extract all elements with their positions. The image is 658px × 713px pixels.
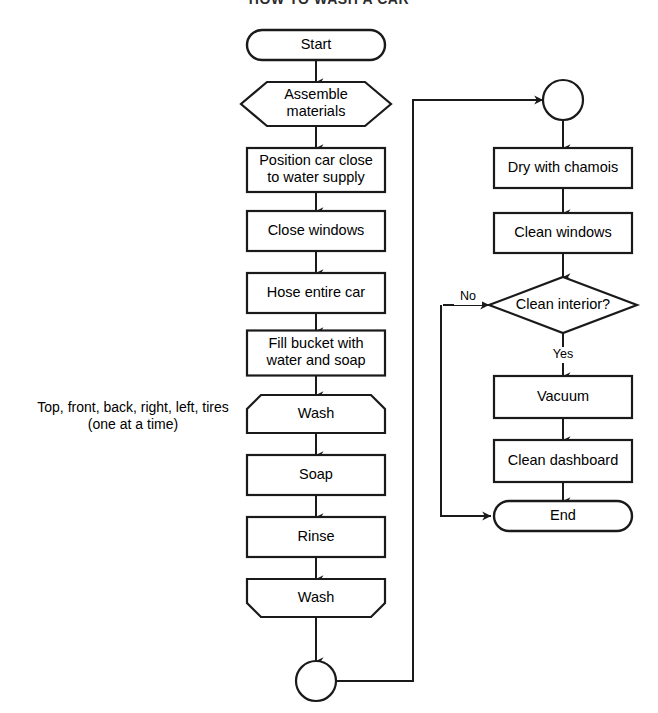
edge-e-cleanint-end: No [441,289,491,516]
node-soap[interactable]: Soap [247,455,385,495]
cleanint-label: Clean interior? [516,296,610,312]
node-cleandash[interactable]: Clean dashboard [494,440,632,482]
no-branch-path [441,305,491,516]
node-cleanwin[interactable]: Clean windows [494,213,632,253]
node-wash2[interactable]: Wash [247,579,385,617]
node-rinse[interactable]: Rinse [247,517,385,557]
node-cleanint[interactable]: Clean interior? [489,277,637,333]
rinse-label: Rinse [297,528,334,544]
node-wash1[interactable]: Wash [247,395,385,433]
node-vacuum[interactable]: Vacuum [494,376,632,418]
node-hose[interactable]: Hose entire car [247,273,385,313]
cleandash-label: Clean dashboard [508,452,618,468]
drychamois-label: Dry with chamois [508,159,618,175]
annotation-line-1: Top, front, back, right, left, tires [37,399,228,415]
connA-shape[interactable] [296,661,336,701]
flowchart-svg: HOW TO WASH A CAR YesNo StartAssemblemat… [0,0,658,713]
edge-e-cleanint-vacuum: Yes [549,333,577,376]
fillbucket-label: Fill bucket with [268,335,363,351]
assemble-label: materials [287,103,346,119]
diagram-title: HOW TO WASH A CAR [249,0,410,7]
connB-shape[interactable] [543,80,583,120]
node-assemble[interactable]: Assemblematerials [241,82,391,126]
node-layer: StartAssemblematerialsPosition car close… [241,30,637,701]
soap-label: Soap [299,466,333,482]
wash2-label: Wash [298,589,335,605]
node-fillbucket[interactable]: Fill bucket withwater and soap [247,331,385,376]
closewin-label: Close windows [268,222,365,238]
hose-label: Hose entire car [267,284,365,300]
position-label: Position car close [259,152,373,168]
node-position[interactable]: Position car closeto water supply [247,148,385,192]
annotation-line-2: (one at a time) [88,416,178,432]
node-start[interactable]: Start [247,30,385,60]
wash1-label: Wash [298,405,335,421]
node-closewin[interactable]: Close windows [247,211,385,251]
assemble-label: Assemble [284,86,348,102]
fillbucket-label: water and soap [265,352,365,368]
position-label: to water supply [267,169,365,185]
annotation-note: Top, front, back, right, left, tires (on… [37,399,228,432]
node-connA[interactable] [296,661,336,701]
end-label: End [550,507,576,523]
start-label: Start [301,36,332,52]
cleanwin-label: Clean windows [514,224,612,240]
edge-label-yes: Yes [553,347,573,361]
node-end[interactable]: End [494,501,632,531]
node-connB[interactable] [543,80,583,120]
node-drychamois[interactable]: Dry with chamois [494,148,632,188]
flowchart-canvas: HOW TO WASH A CAR YesNo StartAssemblemat… [0,0,658,713]
edge-label-no: No [460,289,476,303]
vacuum-label: Vacuum [537,388,589,404]
